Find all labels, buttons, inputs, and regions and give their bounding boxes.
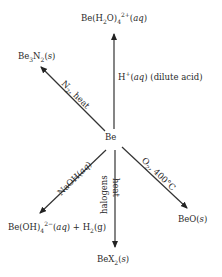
product-be-hydroxo: Be(OH)42−(aq) + H2(g) bbox=[8, 223, 106, 232]
product-bex2: BeX2(s) bbox=[97, 255, 129, 264]
condition-heat: heat bbox=[112, 178, 121, 197]
product-beo: BeO(s) bbox=[178, 215, 207, 224]
condition-acid: H+(aq) (dilute acid) bbox=[118, 73, 202, 82]
condition-halogens: halogens bbox=[100, 175, 109, 214]
product-be3n2: Be3N2(s) bbox=[18, 52, 55, 61]
product-be-aqua: Be(H2O)42+(aq) bbox=[81, 14, 147, 23]
center-be: Be bbox=[105, 133, 116, 142]
